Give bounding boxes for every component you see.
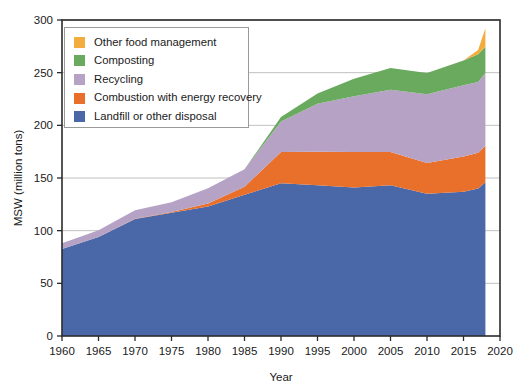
y-tick-label: 300 xyxy=(34,14,53,26)
y-axis-title: MSW (million tons) xyxy=(12,130,24,227)
y-axis-ticks: 050100150200250300 xyxy=(34,14,62,342)
y-tick-label: 50 xyxy=(40,277,53,289)
y-tick-label: 200 xyxy=(34,119,53,131)
legend-swatch-icon xyxy=(74,111,85,122)
x-tick-label: 1980 xyxy=(195,345,221,357)
legend-swatch-icon xyxy=(74,55,85,66)
x-tick-label: 1970 xyxy=(122,345,148,357)
x-axis-title: Year xyxy=(269,371,292,383)
x-tick-label: 2000 xyxy=(341,345,367,357)
x-tick-label: 2010 xyxy=(414,345,440,357)
y-tick-label: 150 xyxy=(34,172,53,184)
y-tick-label: 0 xyxy=(47,330,53,342)
legend-swatch-icon xyxy=(74,93,85,104)
legend-item: Recycling xyxy=(74,70,241,89)
legend-item-label: Composting xyxy=(94,55,154,66)
x-tick-label: 2005 xyxy=(378,345,404,357)
legend-item-label: Other food management xyxy=(94,37,216,48)
x-tick-label: 1985 xyxy=(232,345,258,357)
legend-item: Other food management xyxy=(74,33,241,52)
x-tick-label: 1960 xyxy=(49,345,75,357)
x-axis-ticks: 1960196519701975198019851990199520002005… xyxy=(49,336,513,357)
legend-item-label: Combustion with energy recovery xyxy=(94,92,262,103)
legend-item-label: Landfill or other disposal xyxy=(94,111,216,122)
x-tick-label: 1965 xyxy=(86,345,112,357)
x-tick-label: 2015 xyxy=(451,345,477,357)
legend-item-label: Recycling xyxy=(94,74,143,85)
y-tick-label: 250 xyxy=(34,67,53,79)
x-tick-label: 2020 xyxy=(487,345,513,357)
x-tick-label: 1975 xyxy=(159,345,185,357)
legend-item: Composting xyxy=(74,52,241,71)
legend-item: Combustion with energy recovery xyxy=(74,89,241,108)
x-tick-label: 1995 xyxy=(305,345,331,357)
x-tick-label: 1990 xyxy=(268,345,294,357)
legend-swatch-icon xyxy=(74,37,85,48)
y-tick-label: 100 xyxy=(34,225,53,237)
legend-item: Landfill or other disposal xyxy=(74,107,241,126)
msw-stacked-area-chart: 1960196519701975198019851990199520002005… xyxy=(0,0,527,389)
chart-legend: Other food managementCompostingRecycling… xyxy=(64,27,249,128)
legend-swatch-icon xyxy=(74,74,85,85)
